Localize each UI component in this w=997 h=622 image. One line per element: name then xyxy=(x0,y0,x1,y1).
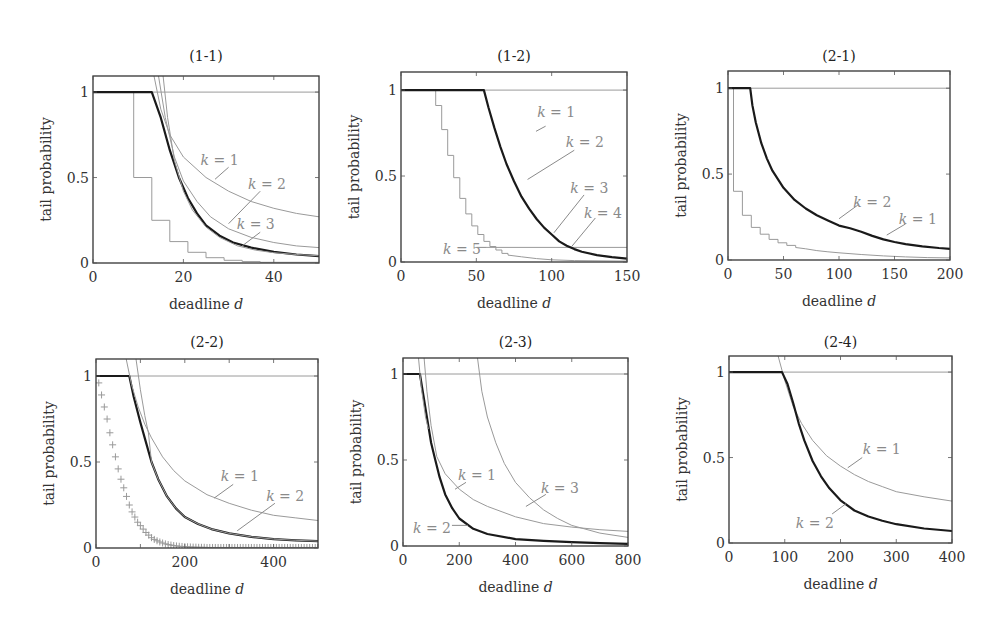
y-axis-label: tail probability xyxy=(41,401,57,506)
plot-frame xyxy=(729,356,952,543)
annotation-pointer xyxy=(526,494,546,506)
plus-marker xyxy=(109,441,116,448)
y-tick-label: 0.5 xyxy=(375,168,397,184)
plot-area xyxy=(401,90,627,261)
y-tick-label: 1 xyxy=(80,84,89,100)
chart-title: (2-4) xyxy=(824,334,857,350)
chart-title: (2-1) xyxy=(822,48,855,64)
exact-curve xyxy=(93,92,319,256)
x-tick-label: 800 xyxy=(615,552,642,568)
y-axis-label: tail probability xyxy=(673,113,689,218)
y-tick-label: 0.5 xyxy=(377,452,399,468)
y-tick-label: 0 xyxy=(80,255,89,271)
x-axis-label: deadline d xyxy=(803,576,877,592)
x-tick-label: 300 xyxy=(883,549,910,565)
annotation-pointer xyxy=(554,195,584,233)
y-tick-label: 0 xyxy=(715,252,724,268)
x-tick-label: 0 xyxy=(92,554,101,570)
x-axis-label: deadline d xyxy=(802,293,876,309)
plus-marker xyxy=(115,465,122,472)
plus-marker xyxy=(101,403,108,410)
x-tick-label: 200 xyxy=(827,549,854,565)
marker-series xyxy=(95,379,321,551)
x-tick-label: 600 xyxy=(558,552,585,568)
annotation-pointer xyxy=(536,126,546,131)
annotation-pointer xyxy=(571,218,595,247)
plus-marker xyxy=(106,429,113,436)
annotation-label: k = 2 xyxy=(853,194,891,210)
y-tick-label: 0 xyxy=(716,535,725,551)
y-axis-label: tail probability xyxy=(348,400,364,505)
annotation-label: k = 2 xyxy=(413,520,451,536)
x-tick-label: 150 xyxy=(881,266,908,282)
y-tick-label: 1 xyxy=(388,82,397,98)
x-tick-label: 100 xyxy=(538,268,565,284)
x-tick-label: 20 xyxy=(174,269,192,285)
plot-area xyxy=(728,88,950,258)
chart-title: (1-1) xyxy=(189,48,222,64)
bound-curve xyxy=(154,76,319,217)
annotation-label: k = 5 xyxy=(443,241,481,257)
y-tick-label: 0 xyxy=(390,538,399,554)
annotation-label: k = 1 xyxy=(537,104,575,120)
x-axis-label: deadline d xyxy=(169,296,243,312)
y-tick-label: 0.5 xyxy=(67,170,89,186)
y-tick-label: 0.5 xyxy=(703,450,725,466)
x-tick-label: 100 xyxy=(771,549,798,565)
plus-marker xyxy=(104,416,111,423)
x-tick-label: 400 xyxy=(260,554,287,570)
annotation-label: k = 2 xyxy=(566,134,604,150)
annotation-pointer xyxy=(832,504,846,514)
plus-marker xyxy=(117,476,124,483)
exact-curve xyxy=(729,372,952,531)
plot-area xyxy=(403,358,628,544)
plot-area xyxy=(729,356,952,531)
bound-curve xyxy=(424,358,628,531)
x-tick-label: 0 xyxy=(724,266,733,282)
annotation-pointer xyxy=(528,150,575,179)
y-tick-label: 0 xyxy=(83,540,92,556)
annotation-label: k = 4 xyxy=(584,205,622,221)
y-tick-label: 0.5 xyxy=(702,166,724,182)
chart-title: (2-2) xyxy=(190,334,223,350)
plus-marker xyxy=(120,484,127,491)
plot-frame xyxy=(403,358,628,546)
plus-marker xyxy=(98,391,105,398)
figure-grid: tail probability deadline d (1-1)k = 1k … xyxy=(0,0,997,622)
plot-frame xyxy=(401,72,627,262)
x-tick-label: 0 xyxy=(397,268,406,284)
charts-canvas: (1-1)k = 1k = 2k = 30204000.51deadline d… xyxy=(0,0,997,622)
y-tick-label: 0 xyxy=(388,254,397,270)
y-axis-label: tail probability xyxy=(38,117,54,222)
x-tick-label: 0 xyxy=(89,269,98,285)
y-tick-label: 1 xyxy=(716,364,725,380)
plot-frame xyxy=(728,71,950,260)
x-axis-label: deadline d xyxy=(170,581,244,597)
plus-marker xyxy=(112,453,119,460)
x-tick-label: 400 xyxy=(939,549,966,565)
x-tick-label: 150 xyxy=(614,268,641,284)
y-tick-label: 1 xyxy=(715,80,724,96)
chart-2-3: (2-3)k = 1k = 3k = 2020040060080000.51de… xyxy=(348,334,641,595)
bound-curve xyxy=(728,88,950,258)
annotation-pointer xyxy=(214,484,233,498)
x-axis-label: deadline d xyxy=(477,295,551,311)
annotation-label: k = 2 xyxy=(266,488,304,504)
plot-frame xyxy=(93,76,319,263)
x-tick-label: 50 xyxy=(775,266,793,282)
x-axis-label: deadline d xyxy=(478,579,552,595)
plus-marker xyxy=(123,493,130,500)
bound-curve xyxy=(778,356,952,501)
x-tick-label: 200 xyxy=(446,552,473,568)
exact-curve xyxy=(401,90,627,259)
annotation-label: k = 1 xyxy=(221,468,259,484)
x-tick-label: 200 xyxy=(937,266,964,282)
y-tick-label: 1 xyxy=(390,366,399,382)
annotation-label: k = 3 xyxy=(541,480,579,496)
y-tick-label: 1 xyxy=(83,368,92,384)
y-axis-label: tail probability xyxy=(346,115,362,220)
x-tick-label: 0 xyxy=(725,549,734,565)
annotation-label: k = 2 xyxy=(796,515,834,531)
x-tick-label: 0 xyxy=(399,552,408,568)
y-axis-label: tail probability xyxy=(674,397,690,502)
